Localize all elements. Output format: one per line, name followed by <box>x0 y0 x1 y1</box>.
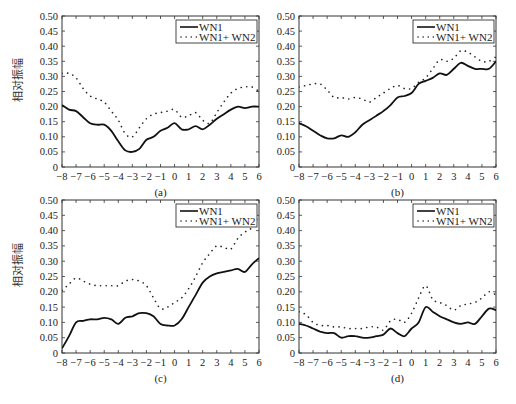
series-dots-wn1-wn2 <box>62 73 259 137</box>
x-tick-label: −1 <box>155 357 166 368</box>
y-tick-label: 0.30 <box>277 256 295 267</box>
y-tick-label: 0.25 <box>277 271 295 282</box>
x-tick-label: 0 <box>172 357 177 368</box>
y-tick-label: 0.15 <box>277 302 295 313</box>
y-tick-label: 0.05 <box>40 146 58 157</box>
x-tick-label: 6 <box>256 171 261 182</box>
legend: WN1WN1+ WN2 <box>176 204 257 227</box>
y-tick-label: 0.10 <box>277 131 295 142</box>
x-tick-label: 3 <box>214 171 219 182</box>
x-tick-label: 1 <box>423 171 428 182</box>
x-tick-label: 2 <box>437 357 442 368</box>
y-tick-label: 0 <box>53 348 58 359</box>
y-tick-label: 0.50 <box>40 195 58 206</box>
y-tick-label: 0.45 <box>277 26 295 37</box>
series-dots-wn1-wn2 <box>299 286 496 331</box>
x-tick-label: −2 <box>378 357 389 368</box>
series-line-wn1 <box>299 61 496 138</box>
y-tick-label: 0.50 <box>40 11 58 22</box>
x-tick-label: 5 <box>242 357 247 368</box>
x-tick-label: −4 <box>113 357 125 368</box>
x-tick-label: −1 <box>155 171 166 182</box>
x-tick-label: −3 <box>364 171 375 182</box>
y-tick-label: 0.05 <box>40 332 58 343</box>
y-tick-label: 0.20 <box>40 286 58 297</box>
series-dots-wn1-wn2 <box>62 215 259 309</box>
y-axis-label: 相对振幅 <box>11 58 25 102</box>
y-tick-label: 0.30 <box>277 71 295 82</box>
x-tick-label: 5 <box>479 171 484 182</box>
series-line-wn1 <box>62 105 259 152</box>
y-tick-label: 0 <box>53 162 58 173</box>
x-tick-label: −7 <box>70 171 81 182</box>
chart-panel-a: −8−7−6−5−4−3−2−1012345600.050.100.150.20… <box>11 11 262 200</box>
x-tick-label: 3 <box>451 357 456 368</box>
x-tick-label: −5 <box>99 171 110 182</box>
x-tick-label: −4 <box>113 171 125 182</box>
x-tick-label: 6 <box>493 357 498 368</box>
x-tick-label: 3 <box>451 171 456 182</box>
x-tick-label: −7 <box>70 357 81 368</box>
y-tick-label: 0.10 <box>40 131 58 142</box>
y-tick-label: 0.50 <box>277 195 295 206</box>
y-tick-label: 0.40 <box>40 225 58 236</box>
y-tick-label: 0.40 <box>277 225 295 236</box>
x-tick-label: −3 <box>127 357 138 368</box>
x-tick-label: −5 <box>336 357 347 368</box>
legend-label-wn1-wn2: WN1+ WN2 <box>436 31 492 43</box>
x-tick-label: −3 <box>364 357 375 368</box>
x-tick-label: −8 <box>56 171 67 182</box>
y-tick-label: 0.15 <box>277 116 295 127</box>
x-tick-label: 2 <box>437 171 442 182</box>
legend-label-wn1-wn2: WN1+ WN2 <box>436 215 492 227</box>
x-tick-label: 3 <box>214 357 219 368</box>
x-tick-label: 4 <box>465 171 471 182</box>
x-tick-label: 2 <box>200 357 205 368</box>
x-tick-label: −4 <box>350 357 362 368</box>
chart-panel-b: −8−7−6−5−4−3−2−1012345600.050.100.150.20… <box>277 11 499 200</box>
panel-caption: (b) <box>391 186 404 199</box>
y-tick-label: 0 <box>290 162 295 173</box>
x-tick-label: 0 <box>409 357 414 368</box>
panel-caption: (d) <box>391 372 404 385</box>
x-tick-label: 2 <box>200 171 205 182</box>
x-tick-label: −2 <box>141 357 152 368</box>
x-tick-label: −8 <box>56 357 67 368</box>
y-tick-label: 0.45 <box>40 210 58 221</box>
y-tick-label: 0.40 <box>277 41 295 52</box>
x-tick-label: 6 <box>256 357 261 368</box>
legend: WN1WN1+ WN2 <box>176 20 257 43</box>
legend-label-wn1-wn2: WN1+ WN2 <box>199 31 255 43</box>
y-tick-label: 0.15 <box>40 302 58 313</box>
x-tick-label: −6 <box>322 171 333 182</box>
x-tick-label: 4 <box>465 357 471 368</box>
x-tick-label: −2 <box>141 171 152 182</box>
x-tick-label: −1 <box>392 357 403 368</box>
x-tick-label: −5 <box>336 171 347 182</box>
x-tick-label: −7 <box>307 357 318 368</box>
y-tick-label: 0.45 <box>40 26 58 37</box>
y-tick-label: 0.10 <box>277 317 295 328</box>
series-line-wn1 <box>62 258 259 348</box>
y-tick-label: 0.35 <box>277 56 295 67</box>
x-tick-label: −5 <box>99 357 110 368</box>
x-tick-label: 1 <box>423 357 428 368</box>
y-tick-label: 0.05 <box>277 146 295 157</box>
x-tick-label: 0 <box>172 171 177 182</box>
y-tick-label: 0.35 <box>40 56 58 67</box>
y-tick-label: 0.15 <box>40 116 58 127</box>
x-tick-label: −2 <box>378 171 389 182</box>
x-tick-label: 0 <box>409 171 414 182</box>
panel-caption: (a) <box>154 186 167 199</box>
x-tick-label: −8 <box>293 171 304 182</box>
x-tick-label: 5 <box>242 171 247 182</box>
chart-panel-d: −8−7−6−5−4−3−2−1012345600.050.100.150.20… <box>277 195 499 386</box>
y-tick-label: 0.25 <box>277 86 295 97</box>
x-tick-label: −3 <box>127 171 138 182</box>
legend-label-wn1-wn2: WN1+ WN2 <box>199 215 255 227</box>
x-tick-label: −8 <box>293 357 304 368</box>
x-tick-label: −6 <box>85 171 96 182</box>
y-tick-label: 0.35 <box>277 240 295 251</box>
y-tick-label: 0.50 <box>277 11 295 22</box>
y-tick-label: 0 <box>290 348 295 359</box>
